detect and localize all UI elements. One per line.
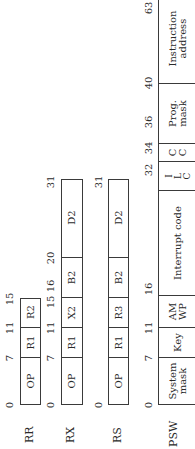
bit-label: 11 [144, 322, 154, 335]
bit-label: 63 [144, 2, 154, 15]
field-cc: C C [159, 143, 195, 161]
bit-label: 7 [46, 355, 56, 361]
row-label-psw: PSW [168, 421, 179, 447]
rr-format-box: OP R1 R2 [20, 298, 41, 405]
field-d2: D2 [62, 178, 82, 257]
field-ilc: I L C [159, 161, 195, 190]
bit-label: 0 [144, 402, 154, 408]
rs-format-box: OP R1 R3 B2 D2 [108, 179, 129, 405]
bit-label: 34 [144, 142, 154, 155]
bit-label: 7 [5, 355, 15, 361]
field-x2: X2 [62, 297, 82, 327]
bit-label: 0 [5, 402, 15, 408]
field-key: Key [159, 327, 195, 357]
bit-label: 11 [46, 322, 56, 335]
bit-label: 31 [46, 176, 56, 189]
field-op: OP [21, 357, 40, 404]
field-b2: B2 [109, 257, 128, 297]
field-r3: R3 [109, 297, 128, 327]
field-r1: R1 [62, 327, 82, 357]
bit-label: 7 [144, 355, 154, 361]
field-d2: D2 [109, 178, 128, 257]
bit-label: 32 [144, 164, 154, 177]
field-b2: B2 [62, 257, 82, 297]
bit-label: 20 [46, 252, 56, 265]
bit-label: 16 [46, 280, 56, 293]
bit-label: 16 [144, 283, 154, 296]
bit-label: 0 [94, 402, 104, 408]
bit-label: 36 [144, 116, 154, 129]
bit-label: 15 [46, 296, 56, 309]
rx-format-box: OP R1 X2 B2 D2 [61, 179, 83, 405]
field-interrupt-code: Interrupt code [159, 190, 195, 295]
bit-label: 11 [5, 322, 15, 335]
row-label-rs: RS [112, 427, 123, 443]
field-op: OP [109, 357, 128, 404]
field-r1: R1 [109, 327, 128, 357]
field-am-wp: AM WP [159, 295, 195, 327]
row-label-rx: RX [65, 427, 76, 443]
field-op: OP [62, 357, 82, 404]
field-system-mask: System mask [159, 357, 195, 404]
field-r2: R2 [21, 297, 40, 327]
bit-label: 31 [94, 176, 104, 189]
instruction-format-diagram: RR 0 7 11 15 OP R1 R2 RX 0 7 11 15 16 20… [0, 0, 195, 449]
field-prog-mask: Prog. mask [159, 83, 195, 143]
bit-label: 40 [144, 77, 154, 90]
field-r1: R1 [21, 327, 40, 357]
row-label-rr: RR [24, 426, 35, 443]
psw-format-box: System mask Key AM WP Interrupt code I L… [158, 0, 195, 405]
bit-label: 0 [46, 402, 56, 408]
bit-label: 15 [5, 293, 15, 306]
field-instruction-address: Instruction address [159, 0, 195, 83]
